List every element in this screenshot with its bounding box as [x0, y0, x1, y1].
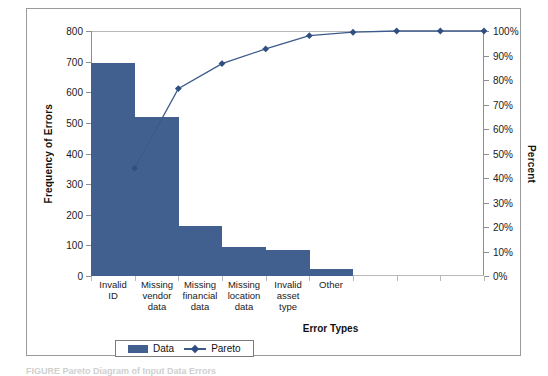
- pareto-marker: [481, 28, 488, 35]
- legend-item-data-label: Data: [153, 343, 174, 354]
- x-axis-tick: [484, 276, 485, 281]
- secondary-y-axis-tick: [484, 252, 489, 253]
- y-axis-tick-label: 0: [77, 271, 83, 282]
- plot-area: 01002003004005006007008000%10%20%30%40%5…: [91, 31, 484, 276]
- secondary-y-axis-tick: [484, 80, 489, 81]
- secondary-y-axis-tick: [484, 154, 489, 155]
- pareto-line: [91, 31, 484, 276]
- secondary-y-axis-tick: [484, 178, 489, 179]
- x-axis-category-label: Other: [309, 279, 353, 290]
- x-axis-category-label: Missingvendordata: [135, 279, 179, 313]
- secondary-y-axis-tick-label: 70%: [493, 99, 513, 110]
- pareto-marker: [262, 45, 269, 52]
- y-axis-tick-label: 200: [66, 209, 83, 220]
- secondary-y-axis-tick: [484, 105, 489, 106]
- secondary-y-axis-tick-label: 40%: [493, 173, 513, 184]
- pareto-marker: [306, 32, 313, 39]
- plot-inner: 01002003004005006007008000%10%20%30%40%5…: [91, 31, 484, 276]
- x-axis-category-label: Invalidassettype: [266, 279, 310, 313]
- x-axis-category-label: Missingfinancialdata: [178, 279, 222, 313]
- secondary-y-axis-title-label: Percent: [526, 145, 537, 183]
- pareto-marker: [131, 165, 138, 172]
- x-axis-category-labels: InvalidIDMissingvendordataMissingfinanci…: [91, 279, 484, 325]
- figure-caption-text: Pareto Diagram of Input Data Errors: [63, 366, 217, 376]
- figure-caption: FIGURE Pareto Diagram of Input Data Erro…: [26, 366, 521, 376]
- secondary-y-axis-tick: [484, 129, 489, 130]
- chart-frame: Frequency of Errors Percent 010020030040…: [26, 8, 521, 356]
- figure-caption-label: FIGURE: [26, 366, 60, 376]
- y-axis-title: Frequency of Errors: [41, 54, 55, 254]
- secondary-y-axis-tick-label: 20%: [493, 222, 513, 233]
- pareto-marker: [219, 60, 226, 67]
- secondary-y-axis-tick-label: 60%: [493, 124, 513, 135]
- secondary-y-axis-tick: [484, 203, 489, 204]
- legend-item-data: Data: [128, 343, 174, 354]
- secondary-y-axis-tick-label: 50%: [493, 148, 513, 159]
- y-axis-tick-label: 300: [66, 179, 83, 190]
- secondary-y-axis-tick-label: 0%: [493, 271, 507, 282]
- chart-legend: Data Pareto: [115, 340, 254, 357]
- secondary-y-axis-tick-label: 10%: [493, 246, 513, 257]
- pareto-marker: [175, 85, 182, 92]
- x-axis-category-label: Missinglocationdata: [222, 279, 266, 313]
- legend-item-pareto-label: Pareto: [211, 343, 240, 354]
- secondary-y-axis-tick-label: 90%: [493, 50, 513, 61]
- secondary-y-axis-tick-label: 100%: [493, 26, 519, 37]
- x-axis-category-label: InvalidID: [91, 279, 135, 301]
- figure-page: Frequency of Errors Percent 010020030040…: [0, 0, 548, 376]
- secondary-y-axis-tick: [484, 227, 489, 228]
- pareto-marker: [437, 28, 444, 35]
- legend-item-pareto: Pareto: [184, 343, 240, 354]
- y-axis-tick-label: 400: [66, 148, 83, 159]
- secondary-y-axis-tick-label: 30%: [493, 197, 513, 208]
- legend-bar-swatch-icon: [128, 345, 148, 353]
- y-axis-tick-label: 100: [66, 240, 83, 251]
- y-axis-tick-label: 800: [66, 26, 83, 37]
- pareto-marker: [350, 29, 357, 36]
- pareto-marker: [393, 28, 400, 35]
- secondary-y-axis-tick-label: 80%: [493, 75, 513, 86]
- y-axis-title-label: Frequency of Errors: [43, 104, 54, 203]
- x-axis-title: Error Types: [27, 323, 522, 334]
- legend-line-diamond-icon: [184, 345, 206, 353]
- secondary-y-axis-tick: [484, 56, 489, 57]
- x-axis-title-label: Error Types: [303, 323, 358, 334]
- secondary-y-axis-title: Percent: [524, 119, 538, 209]
- y-axis-tick-label: 700: [66, 56, 83, 67]
- y-axis-tick-label: 600: [66, 87, 83, 98]
- y-axis-tick-label: 500: [66, 117, 83, 128]
